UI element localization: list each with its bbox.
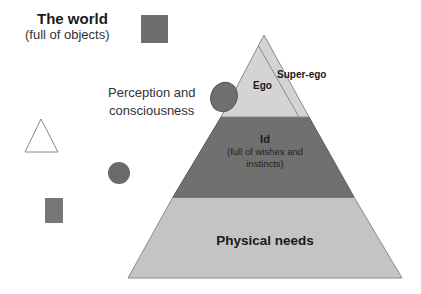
perception-label: Perception and consciousness: [108, 84, 195, 120]
gray-rectangle: [45, 198, 63, 223]
world-subtitle: (full of objects): [25, 27, 110, 42]
diagram-canvas: [0, 0, 421, 294]
physical-needs-label: Physical needs: [200, 233, 330, 248]
world-square: [141, 15, 168, 43]
world-title: The world: [37, 10, 108, 27]
id-subtitle: (full of wishes and instincts): [220, 146, 310, 170]
gray-circle: [108, 162, 130, 184]
perception-line-1: Perception and: [108, 84, 195, 102]
outline-triangle: [25, 119, 58, 152]
ego-label: Ego: [253, 80, 272, 91]
superego-label: Super-ego: [277, 69, 326, 80]
perception-line-2: consciousness: [108, 102, 195, 120]
id-label: Id: [230, 133, 300, 145]
